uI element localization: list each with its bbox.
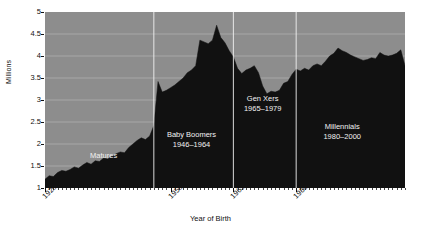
x-minor-tick-mark bbox=[313, 188, 314, 190]
x-axis-ticks: 1920195019651980 bbox=[0, 0, 421, 233]
generation-name: Gen Xers bbox=[247, 94, 279, 103]
generation-annotation: Baby Boomers1946–1964 bbox=[167, 130, 216, 150]
generation-annotation: Gen Xers1965–1979 bbox=[244, 94, 282, 114]
x-minor-tick-mark bbox=[363, 188, 364, 190]
x-minor-tick-mark bbox=[292, 188, 293, 190]
x-minor-tick-mark bbox=[141, 188, 142, 190]
x-minor-tick-mark bbox=[208, 188, 209, 190]
generation-annotation: Millennials1980–2000 bbox=[323, 122, 361, 142]
x-minor-tick-mark bbox=[384, 188, 385, 190]
x-tick-label: 1980 bbox=[292, 183, 309, 200]
x-minor-tick-mark bbox=[279, 188, 280, 190]
x-minor-tick-mark bbox=[91, 188, 92, 190]
x-minor-tick-mark bbox=[83, 188, 84, 190]
x-minor-tick-mark bbox=[346, 188, 347, 190]
x-minor-tick-mark bbox=[271, 188, 272, 190]
generation-years: 1965–1979 bbox=[244, 104, 282, 114]
generation-years: 1980–2000 bbox=[323, 132, 361, 142]
x-minor-tick-mark bbox=[112, 188, 113, 190]
x-tick-label: 1950 bbox=[167, 183, 184, 200]
x-minor-tick-mark bbox=[62, 188, 63, 190]
x-minor-tick-mark bbox=[380, 188, 381, 190]
x-minor-tick-mark bbox=[120, 188, 121, 190]
x-minor-tick-mark bbox=[225, 188, 226, 190]
x-minor-tick-mark bbox=[401, 188, 402, 190]
x-minor-tick-mark bbox=[397, 188, 398, 190]
x-minor-tick-mark bbox=[129, 188, 130, 190]
x-minor-tick-mark bbox=[95, 188, 96, 190]
x-axis-title: Year of Birth bbox=[0, 214, 421, 223]
x-minor-tick-mark bbox=[158, 188, 159, 190]
x-minor-tick-mark bbox=[74, 188, 75, 190]
x-minor-tick-mark bbox=[376, 188, 377, 190]
x-minor-tick-mark bbox=[288, 188, 289, 190]
x-minor-tick-mark bbox=[263, 188, 264, 190]
generation-years: 1946–1964 bbox=[167, 140, 216, 150]
x-minor-tick-mark bbox=[334, 188, 335, 190]
x-minor-tick-mark bbox=[187, 188, 188, 190]
x-minor-tick-mark bbox=[192, 188, 193, 190]
generation-annotation: Matures bbox=[90, 151, 117, 161]
x-minor-tick-mark bbox=[321, 188, 322, 190]
x-minor-tick-mark bbox=[359, 188, 360, 190]
x-tick-label: 1920 bbox=[41, 183, 58, 200]
x-minor-tick-mark bbox=[99, 188, 100, 190]
x-minor-tick-mark bbox=[133, 188, 134, 190]
births-by-year-chart: Millions 11.522.533.544.55 1920195019651… bbox=[0, 0, 421, 233]
x-minor-tick-mark bbox=[87, 188, 88, 190]
x-minor-tick-mark bbox=[150, 188, 151, 190]
x-minor-tick-mark bbox=[267, 188, 268, 190]
generation-name: Millennials bbox=[325, 122, 360, 131]
x-minor-tick-mark bbox=[137, 188, 138, 190]
x-minor-tick-mark bbox=[275, 188, 276, 190]
x-minor-tick-mark bbox=[200, 188, 201, 190]
x-minor-tick-mark bbox=[217, 188, 218, 190]
x-minor-tick-mark bbox=[330, 188, 331, 190]
x-minor-tick-mark bbox=[338, 188, 339, 190]
x-minor-tick-mark bbox=[221, 188, 222, 190]
x-minor-tick-mark bbox=[70, 188, 71, 190]
x-tick-label: 1965 bbox=[229, 183, 246, 200]
x-minor-tick-mark bbox=[78, 188, 79, 190]
x-minor-tick-mark bbox=[284, 188, 285, 190]
x-minor-tick-mark bbox=[342, 188, 343, 190]
x-minor-tick-mark bbox=[162, 188, 163, 190]
x-minor-tick-mark bbox=[317, 188, 318, 190]
x-minor-tick-mark bbox=[388, 188, 389, 190]
x-minor-tick-mark bbox=[204, 188, 205, 190]
x-minor-tick-mark bbox=[125, 188, 126, 190]
x-minor-tick-mark bbox=[372, 188, 373, 190]
x-minor-tick-mark bbox=[154, 188, 155, 190]
x-minor-tick-mark bbox=[405, 188, 406, 190]
x-minor-tick-mark bbox=[351, 188, 352, 190]
x-minor-tick-mark bbox=[66, 188, 67, 190]
generation-name: Baby Boomers bbox=[167, 130, 216, 139]
x-minor-tick-mark bbox=[166, 188, 167, 190]
x-minor-tick-mark bbox=[104, 188, 105, 190]
x-minor-tick-mark bbox=[325, 188, 326, 190]
x-minor-tick-mark bbox=[355, 188, 356, 190]
x-minor-tick-mark bbox=[145, 188, 146, 190]
x-minor-tick-mark bbox=[250, 188, 251, 190]
x-minor-tick-mark bbox=[196, 188, 197, 190]
generation-name: Matures bbox=[90, 151, 117, 160]
x-minor-tick-mark bbox=[116, 188, 117, 190]
x-minor-tick-mark bbox=[258, 188, 259, 190]
x-minor-tick-mark bbox=[367, 188, 368, 190]
x-minor-tick-mark bbox=[254, 188, 255, 190]
x-minor-tick-mark bbox=[392, 188, 393, 190]
x-minor-tick-mark bbox=[229, 188, 230, 190]
x-minor-tick-mark bbox=[108, 188, 109, 190]
x-minor-tick-mark bbox=[212, 188, 213, 190]
